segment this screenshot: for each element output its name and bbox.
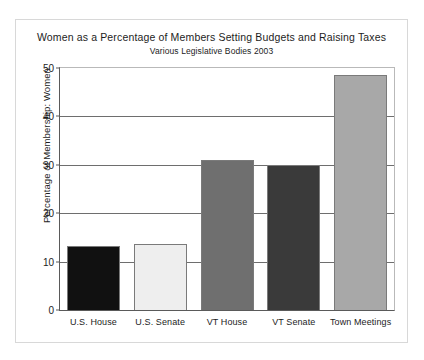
x-tick-label: Town Meetings bbox=[330, 317, 391, 327]
page-title: Women as a Percentage of Members Setting… bbox=[16, 30, 407, 44]
y-tick-label: 20 bbox=[43, 208, 54, 219]
bar-vt-senate[interactable] bbox=[267, 165, 320, 310]
bar-vt-house[interactable] bbox=[201, 160, 254, 310]
y-tick-label: 30 bbox=[43, 159, 54, 170]
y-tick-label: 0 bbox=[48, 305, 54, 316]
bar-u-s-house[interactable] bbox=[67, 246, 120, 310]
bar-series bbox=[60, 68, 394, 310]
chart-card: Women as a Percentage of Members Setting… bbox=[15, 19, 408, 343]
bar-u-s-senate[interactable] bbox=[134, 244, 187, 310]
y-tick-label: 50 bbox=[43, 63, 54, 74]
x-tick-label: VT House bbox=[207, 317, 248, 327]
chart-title-block: Women as a Percentage of Members Setting… bbox=[16, 30, 407, 57]
x-tick-label: U.S. House bbox=[70, 317, 117, 327]
plot-area: 01020304050 U.S. HouseU.S. SenateVT Hous… bbox=[59, 67, 395, 311]
bar-town-meetings[interactable] bbox=[334, 75, 387, 310]
chart-subtitle: Various Legislative Bodies 2003 bbox=[16, 45, 407, 57]
y-tick-label: 10 bbox=[43, 256, 54, 267]
x-tick-label: VT Senate bbox=[272, 317, 315, 327]
x-tick-label: U.S. Senate bbox=[135, 317, 185, 327]
y-tick-label: 40 bbox=[43, 111, 54, 122]
